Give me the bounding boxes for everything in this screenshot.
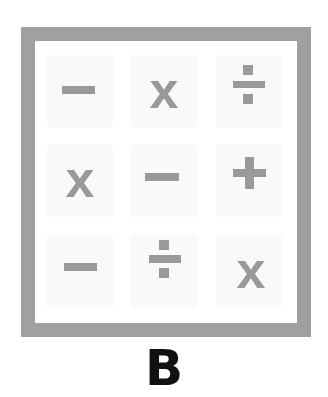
times-icon: x (231, 244, 271, 296)
grid-cell-2-1 (131, 235, 197, 307)
figure-label: B (0, 340, 328, 396)
grid-cell-1-2 (216, 145, 282, 217)
plus-icon (216, 145, 282, 217)
grid-cell-2-0 (47, 235, 113, 307)
divide-icon (216, 55, 282, 127)
minus-icon (47, 55, 113, 127)
times-icon: x (144, 64, 184, 116)
grid-cell-1-1 (131, 145, 197, 217)
grid-cell-0-2 (216, 55, 282, 127)
divide-icon (131, 235, 197, 307)
grid-cell-0-0 (47, 55, 113, 127)
grid-cell-1-0: x (47, 145, 113, 217)
times-icon: x (60, 153, 100, 205)
grid-cell-0-1: x (131, 55, 197, 127)
grid-frame: x x x (21, 27, 311, 337)
minus-icon (131, 145, 197, 217)
grid-cell-2-2: x (216, 235, 282, 307)
minus-icon (47, 235, 113, 307)
